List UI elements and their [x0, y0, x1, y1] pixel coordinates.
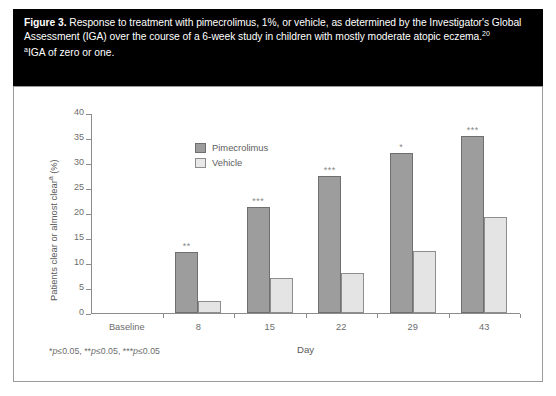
bar-group-43: *** [461, 113, 507, 313]
x-axis-tick-mark [449, 314, 450, 318]
y-axis-title-text: Patients clear or almost clear [48, 180, 59, 301]
x-axis-category-label-29: 29 [408, 322, 418, 332]
footnote-val-1: ≤0.05, [57, 346, 84, 356]
y-axis-tick-label: 20 [74, 207, 84, 217]
y-axis-tick-mark [86, 239, 91, 240]
bar-vehicle-43[interactable] [484, 217, 507, 314]
figure-page: Figure 3. Response to treatment with pim… [0, 0, 556, 396]
figure-number-label: Figure 3. [24, 17, 66, 28]
y-axis-tick-mark [86, 114, 91, 115]
chart-frame: Patients clear or almost cleara (%) Pime… [13, 86, 543, 382]
figure-caption-note: aIGA of zero or one. [24, 46, 533, 60]
plot-area: Pimecrolimus Vehicle 0510152025303540Bas… [91, 114, 520, 314]
bar-group-29: * [390, 113, 436, 313]
bar-vehicle-29[interactable] [413, 251, 436, 314]
bar-pimecrolimus-15[interactable]: *** [247, 207, 270, 313]
x-axis-tick-mark [377, 314, 378, 318]
x-axis-tick-mark [163, 314, 164, 318]
figure-caption-body: Response to treatment with pimecrolimus,… [24, 17, 521, 42]
y-axis-tick-mark [86, 314, 91, 315]
figure-caption-band: Figure 3. Response to treatment with pim… [13, 9, 543, 86]
y-axis-tick-label: 35 [74, 132, 84, 142]
bar-group-15: *** [247, 113, 293, 313]
significance-marker-43: *** [467, 126, 479, 135]
x-axis-category-label-22: 22 [336, 322, 346, 332]
x-axis-tick-mark [234, 314, 235, 318]
x-axis-category-label-8: 8 [196, 322, 201, 332]
bar-vehicle-15[interactable] [270, 278, 293, 313]
x-axis-tick-mark [306, 314, 307, 318]
y-axis-title-superscript: a [47, 176, 54, 180]
y-axis-tick-mark [86, 214, 91, 215]
bar-pimecrolimus-22[interactable]: *** [318, 176, 341, 314]
footnote-val-3: ≤0.05 [138, 346, 160, 356]
bar-pimecrolimus-29[interactable]: * [390, 153, 413, 313]
significance-marker-22: *** [324, 166, 336, 175]
y-axis-tick-mark [86, 289, 91, 290]
bar-group-baseline [104, 113, 150, 313]
chart-footnote: *p≤0.05, **p≤0.05, ***p≤0.05 [49, 346, 160, 356]
figure-caption-reference: 20 [482, 30, 490, 37]
y-axis-title-unit: (%) [48, 159, 59, 176]
y-axis-tick-mark [86, 164, 91, 165]
y-axis-tick-label: 30 [74, 157, 84, 167]
bar-vehicle-22[interactable] [341, 273, 364, 313]
significance-marker-29: * [399, 143, 403, 152]
footnote-star-3: *** [123, 346, 133, 356]
y-axis-tick-label: 5 [79, 282, 84, 292]
y-axis-tick-mark [86, 189, 91, 190]
y-axis-tick-label: 0 [79, 307, 84, 317]
y-axis-tick-mark [86, 139, 91, 140]
x-axis-tick-mark [520, 314, 521, 318]
bar-group-8: ** [175, 113, 221, 313]
footnote-val-2: ≤0.05, [96, 346, 123, 356]
y-axis-tick-label: 15 [74, 232, 84, 242]
bar-vehicle-8[interactable] [198, 301, 221, 314]
figure-caption-note-text: IGA of zero or one. [28, 47, 114, 58]
bar-pimecrolimus-8[interactable]: ** [175, 252, 198, 313]
y-axis-tick-label: 40 [74, 107, 84, 117]
x-axis-category-label-43: 43 [479, 322, 489, 332]
significance-marker-15: *** [252, 197, 264, 206]
x-axis-category-label-15: 15 [265, 322, 275, 332]
y-axis-tick-mark [86, 264, 91, 265]
y-axis-line [91, 114, 92, 314]
bar-pimecrolimus-43[interactable]: *** [461, 136, 484, 314]
y-axis-title: Patients clear or almost cleara (%) [48, 131, 59, 301]
y-axis-tick-label: 10 [74, 257, 84, 267]
bar-group-22: *** [318, 113, 364, 313]
figure-caption-text: Figure 3. Response to treatment with pim… [24, 16, 533, 45]
x-axis-category-label-baseline: Baseline [109, 322, 145, 332]
significance-marker-8: ** [183, 242, 191, 251]
y-axis-tick-label: 25 [74, 182, 84, 192]
